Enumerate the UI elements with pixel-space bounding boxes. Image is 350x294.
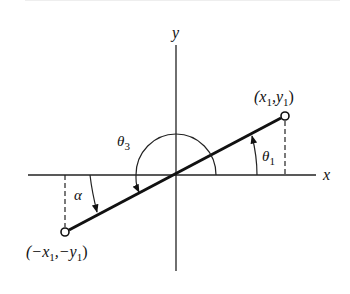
point-p1-label: (x1,y1): [254, 88, 294, 108]
segment-line: [69, 118, 281, 230]
coordinate-diagram: y x θ3 θ1 α (x1,y1) (−x1,−y1): [0, 0, 350, 294]
point-p2-label: (−x1,−y1): [26, 243, 87, 263]
theta1-label: θ1: [262, 148, 275, 167]
y-axis-label: y: [170, 24, 180, 42]
alpha-arc: [90, 175, 97, 212]
x-axis-label: x: [322, 166, 330, 183]
theta3-label: θ3: [117, 133, 130, 152]
point-p1-marker: [281, 112, 289, 120]
alpha-label: α: [74, 187, 83, 203]
theta1-arc: [252, 136, 257, 175]
point-p2-marker: [61, 228, 69, 236]
